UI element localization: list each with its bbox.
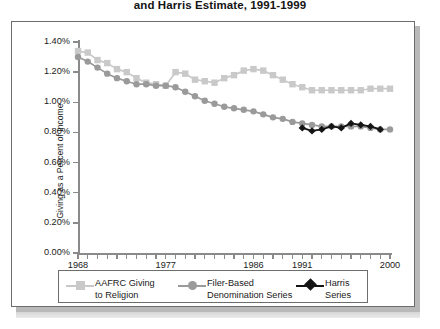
data-point-marker xyxy=(211,79,217,85)
data-point-marker xyxy=(94,57,100,63)
chart-legend: AAFRC Giving to Religion Filer-Based Den… xyxy=(58,270,368,303)
data-point-marker xyxy=(221,75,227,81)
data-point-marker xyxy=(163,83,169,89)
data-point-marker xyxy=(299,84,305,90)
data-point-marker xyxy=(94,64,100,70)
data-point-marker xyxy=(192,93,198,99)
legend-marker-circle-icon xyxy=(177,275,207,297)
data-point-marker xyxy=(377,86,383,92)
legend-label-harris: Harris Series xyxy=(325,275,351,301)
data-point-marker xyxy=(202,98,208,104)
data-point-marker xyxy=(231,72,237,78)
legend-marker-square-icon xyxy=(65,275,95,297)
data-point-marker xyxy=(172,84,178,90)
data-point-marker xyxy=(328,123,335,130)
legend-label-harris-line2: Series xyxy=(325,290,351,302)
data-point-marker xyxy=(133,81,139,87)
data-point-marker xyxy=(289,81,295,87)
legend-label-filer-line2: Denomination Series xyxy=(207,290,292,302)
series-filer xyxy=(75,54,393,133)
chart-screenshot: and Harris Estimate, 1991-1999 Giving as… xyxy=(0,0,440,329)
data-point-marker xyxy=(202,78,208,84)
legend-label-filer-line1: Filer-Based xyxy=(207,278,292,290)
data-point-marker xyxy=(241,107,247,113)
data-point-marker xyxy=(85,49,91,55)
data-point-marker xyxy=(241,67,247,73)
data-point-marker xyxy=(387,126,393,132)
data-point-marker xyxy=(143,81,149,87)
data-point-marker xyxy=(114,75,120,81)
data-point-marker xyxy=(328,87,334,93)
data-point-marker xyxy=(309,122,315,128)
data-point-marker xyxy=(377,126,384,133)
legend-label-filer: Filer-Based Denomination Series xyxy=(207,275,292,301)
data-point-marker xyxy=(231,105,237,111)
data-point-marker xyxy=(260,111,266,117)
legend-label-harris-line1: Harris xyxy=(325,278,351,290)
data-point-marker xyxy=(280,76,286,82)
data-point-marker xyxy=(280,116,286,122)
data-point-marker xyxy=(319,87,325,93)
legend-label-aafrc-line2: to Religion xyxy=(95,290,155,302)
legend-item-harris[interactable]: Harris Series xyxy=(295,275,351,301)
data-point-marker xyxy=(104,70,110,76)
legend-label-aafrc-line1: AAFRC Giving xyxy=(95,278,155,290)
data-point-marker xyxy=(260,67,266,73)
data-point-marker xyxy=(133,75,139,81)
legend-item-filer[interactable]: Filer-Based Denomination Series xyxy=(177,275,292,301)
legend-item-aafrc[interactable]: AAFRC Giving to Religion xyxy=(65,275,155,301)
data-point-marker xyxy=(124,78,130,84)
data-point-marker xyxy=(250,66,256,72)
data-point-marker xyxy=(192,76,198,82)
data-point-marker xyxy=(172,69,178,75)
data-point-marker xyxy=(104,60,110,66)
data-point-marker xyxy=(338,87,344,93)
data-point-marker xyxy=(308,127,315,134)
data-point-marker xyxy=(270,72,276,78)
data-point-marker xyxy=(75,54,81,60)
data-point-marker xyxy=(250,108,256,114)
data-point-marker xyxy=(387,86,393,92)
data-point-marker xyxy=(75,48,81,54)
data-point-marker xyxy=(153,83,159,89)
data-point-marker xyxy=(358,87,364,93)
data-point-marker xyxy=(124,69,130,75)
series-aafrc xyxy=(75,48,393,94)
data-point-marker xyxy=(211,101,217,107)
data-point-marker xyxy=(348,87,354,93)
legend-marker-diamond-icon xyxy=(295,275,325,297)
data-point-marker xyxy=(299,124,306,131)
data-point-marker xyxy=(85,58,91,64)
data-point-marker xyxy=(367,86,373,92)
data-point-marker xyxy=(289,119,295,125)
legend-label-aafrc: AAFRC Giving to Religion xyxy=(95,275,155,301)
data-point-marker xyxy=(221,104,227,110)
data-point-marker xyxy=(309,87,315,93)
data-point-marker xyxy=(182,70,188,76)
data-point-marker xyxy=(114,66,120,72)
data-point-marker xyxy=(182,89,188,95)
data-point-marker xyxy=(270,114,276,120)
